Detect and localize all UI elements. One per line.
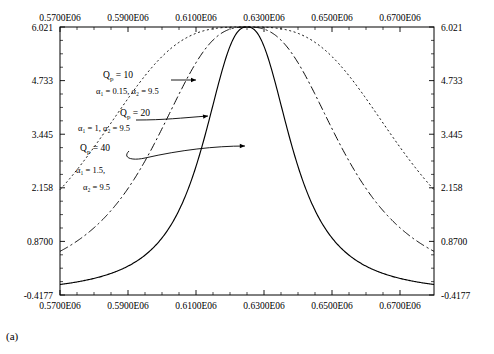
- annotation-qp10: Qp = 10 α₁ = 0.15, α₂ = 9.5: [96, 70, 159, 96]
- tick-label-right: 3.445: [441, 130, 463, 140]
- annotation-qp40: Qp = 40 α₁ = 1.5, α₂ = 9.5: [76, 143, 110, 192]
- axis-bottom-labels: 0.5700E060.5900E060.6100E060.6300E060.65…: [39, 301, 421, 311]
- arrow-qp10-head: [191, 78, 196, 82]
- axis-top-labels: 0.5700E060.5900E060.6100E060.6300E060.65…: [39, 13, 421, 23]
- arrow-qp40: [127, 146, 245, 159]
- tick-label-top: 0.5700E06: [39, 13, 81, 23]
- tick-label-top: 0.6300E06: [243, 13, 285, 23]
- tick-label-bottom: 0.6700E06: [379, 301, 421, 311]
- tick-label-top: 0.6500E06: [311, 13, 353, 23]
- tick-label-left: 0.8700: [27, 237, 53, 247]
- tick-label-top: 0.6700E06: [379, 13, 421, 23]
- axis-left-ticks: [60, 27, 65, 295]
- annot-qp10-params: α₁ = 0.15, α₂ = 9.5: [96, 86, 159, 96]
- axis-right-labels: 6.0214.7333.4452.1580.8700-0.4177: [441, 23, 471, 301]
- tick-label-bottom: 0.6500E06: [311, 301, 353, 311]
- tick-label-bottom: 0.5900E06: [107, 301, 149, 311]
- tick-label-right: 2.158: [441, 183, 463, 193]
- arrow-qp20-head: [203, 114, 208, 118]
- axis-right-ticks: [429, 27, 434, 295]
- annotation-qp20: Qp = 20 α₁ = 1, α₂ = 9.5: [78, 108, 150, 133]
- tick-label-left: 4.733: [32, 76, 54, 86]
- axis-left-labels: 6.0214.7333.4452.1580.8700-0.4177: [24, 23, 54, 301]
- tick-label-right: 4.733: [441, 76, 463, 86]
- curve-q-p-20: [60, 27, 434, 251]
- tick-label-right: -0.4177: [441, 291, 471, 301]
- data-curves: [60, 27, 434, 285]
- tick-label-bottom: 0.6300E06: [243, 301, 285, 311]
- curve-q-p-10: [60, 27, 434, 190]
- annot-qp40-params-2: α₂ = 9.5: [83, 182, 110, 192]
- axis-top-ticks: [60, 27, 400, 32]
- tick-label-left: 3.445: [32, 130, 54, 140]
- curve-q-p-40: [60, 27, 434, 285]
- annot-qp40-label: Qp = 40: [80, 143, 110, 156]
- tick-label-top: 0.6100E06: [175, 13, 217, 23]
- tick-label-bottom: 0.5700E06: [39, 301, 81, 311]
- arrow-qp40-head: [240, 144, 245, 148]
- annot-qp40-params-1: α₁ = 1.5,: [76, 165, 105, 175]
- tick-label-right: 0.8700: [441, 237, 467, 247]
- chart-figure: 0.5700E060.5900E060.6100E060.6300E060.65…: [0, 0, 494, 354]
- figure-caption: (a): [6, 330, 18, 342]
- plot-area: 0.5700E060.5900E060.6100E060.6300E060.65…: [0, 0, 494, 354]
- tick-label-top: 0.5900E06: [107, 13, 149, 23]
- annot-qp20-label: Qp = 20: [120, 108, 150, 121]
- tick-label-left: 2.158: [32, 183, 54, 193]
- axis-bottom-ticks: [60, 290, 400, 295]
- tick-label-left: -0.4177: [24, 291, 54, 301]
- plot-frame: [60, 27, 434, 295]
- tick-label-left: 6.021: [32, 23, 54, 33]
- annot-qp10-label: Qp = 10: [103, 70, 133, 83]
- tick-label-right: 6.021: [441, 23, 463, 33]
- tick-label-bottom: 0.6100E06: [175, 301, 217, 311]
- annot-qp20-params: α₁ = 1, α₂ = 9.5: [78, 123, 130, 133]
